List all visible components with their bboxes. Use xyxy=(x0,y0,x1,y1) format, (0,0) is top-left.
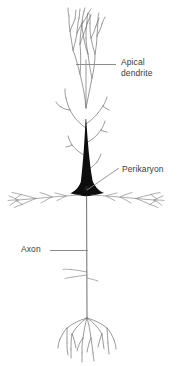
label-apical-dendrite: Apical dendrite xyxy=(121,57,153,78)
perikaryon-soma xyxy=(70,119,104,196)
oblique-dendrite-branches xyxy=(56,89,109,170)
axon-terminal-arbor xyxy=(58,318,116,362)
basal-dendrite-left xyxy=(8,193,80,208)
label-perikaryon: Perikaryon xyxy=(122,164,164,175)
axon-collateral xyxy=(63,269,98,281)
label-apical-dendrite-line1: Apical xyxy=(121,57,145,67)
label-axon: Axon xyxy=(21,244,41,255)
label-apical-dendrite-line2: dendrite xyxy=(121,68,153,79)
neuron-diagram-figure: Apical dendrite Perikaryon Axon xyxy=(0,0,178,366)
basal-dendrite-right xyxy=(92,193,164,208)
apical-tuft-branches xyxy=(68,8,105,108)
neuron-illustration xyxy=(0,0,178,366)
